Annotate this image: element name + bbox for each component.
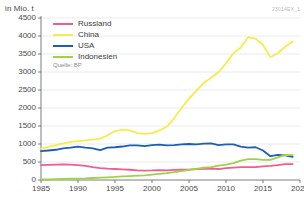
y-tick-label: 4000	[2, 31, 36, 40]
series-line-usa	[41, 143, 293, 157]
x-tick-label: 2005	[171, 184, 207, 193]
legend-item-usa[interactable]: USA	[53, 40, 117, 51]
y-tick-label: 4500	[2, 13, 36, 22]
x-tick-label: 2015	[245, 184, 281, 193]
x-tick-label: 2010	[208, 184, 244, 193]
legend-label: USA	[78, 40, 94, 51]
legend-item-russland[interactable]: Russland	[53, 18, 117, 29]
x-tick-label: 2020	[282, 184, 304, 193]
coal-production-chart: in Mio. t 23014EX_1 45004000350030002500…	[0, 0, 304, 208]
legend-swatch-icon	[53, 34, 73, 36]
x-tick-label: 1990	[60, 184, 96, 193]
legend-label: China	[78, 29, 99, 40]
x-tick-label: 1995	[97, 184, 133, 193]
y-tick-label: 1500	[2, 121, 36, 130]
legend-item-china[interactable]: China	[53, 29, 117, 40]
y-tick-label: 0	[2, 175, 36, 184]
x-tick-label: 1985	[23, 184, 59, 193]
y-tick-label: 3000	[2, 67, 36, 76]
legend-item-indonesien[interactable]: Indonesien	[53, 51, 117, 62]
legend-label: Indonesien	[78, 51, 117, 62]
y-tick-label: 500	[2, 157, 36, 166]
plot-canvas	[0, 0, 304, 208]
legend-label: Russland	[78, 18, 111, 29]
series-line-russland	[41, 164, 293, 170]
y-tick-label: 2000	[2, 103, 36, 112]
x-tick-label: 2000	[134, 184, 170, 193]
legend-swatch-icon	[53, 23, 73, 25]
legend: RusslandChinaUSAIndonesien	[53, 18, 117, 62]
y-tick-label: 1000	[2, 139, 36, 148]
legend-swatch-icon	[53, 45, 73, 47]
legend-swatch-icon	[53, 56, 73, 58]
source-label: Quelle: BP	[53, 62, 82, 68]
y-tick-label: 2500	[2, 85, 36, 94]
y-tick-label: 3500	[2, 49, 36, 58]
